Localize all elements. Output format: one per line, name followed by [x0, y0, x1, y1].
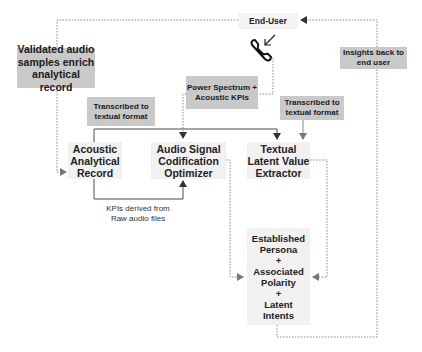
end-user-node: End-User — [238, 13, 298, 29]
edge-textual-to-persona — [310, 160, 327, 277]
label-transcribed-right: Transcribed to textual format — [280, 96, 344, 120]
acoustic-analytical-record-node: Acoustic Analytical Record — [68, 142, 122, 179]
label-kpis-derived: KPIs derived from Raw audio files — [98, 204, 178, 224]
label-transcribed-left: Transcribed to textual format — [87, 97, 155, 126]
label-insights-back: Insights back to end user — [340, 47, 407, 69]
edge-optimizer-to-persona — [226, 160, 243, 277]
label-power-spectrum: Power Spectrum + Acoustic KPIs — [186, 76, 258, 109]
edge-acoustic-to-optimizer — [94, 178, 183, 199]
audio-signal-optimizer-node: Audio Signal Codification Optimizer — [151, 142, 226, 179]
textual-latent-extractor-node: Textual Latent Value Extractor — [247, 142, 310, 179]
end-user-label: End-User — [249, 16, 287, 26]
edge-acoustic-to-textual — [94, 129, 277, 142]
persona-output-node: Established Persona + Associated Polarit… — [247, 228, 310, 325]
label-validated-samples: Validated audio samples enrich analytica… — [17, 48, 95, 88]
phone-incoming-icon — [252, 35, 275, 60]
